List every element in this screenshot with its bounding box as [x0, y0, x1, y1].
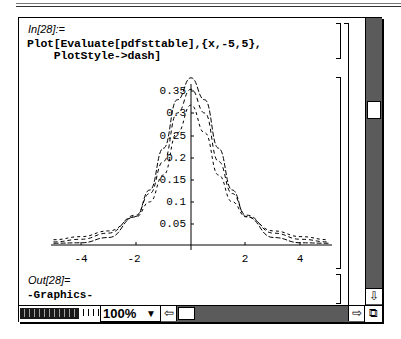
- x-tick-label: 2: [242, 253, 249, 265]
- scroll-right-arrow-icon[interactable]: ⇨: [348, 306, 364, 321]
- x-tick-label: -2: [127, 253, 140, 265]
- y-tick-label: 0.15: [160, 174, 186, 186]
- y-tick-label: 0.1: [166, 196, 186, 208]
- group-cell-bracket[interactable]: [344, 23, 349, 305]
- input-cell-bracket[interactable]: [336, 23, 341, 59]
- page-header-rule: [16, 6, 401, 7]
- vertical-scrollbar[interactable]: ⇩: [365, 18, 382, 305]
- zoom-level: 100%: [103, 306, 143, 322]
- notebook-content: In[28]:= Plot[Evaluate[pdfsttable],{x,-5…: [19, 18, 365, 305]
- notebook-window: In[28]:= Plot[Evaluate[pdfsttable],{x,-5…: [18, 17, 382, 322]
- plot-graphic[interactable]: -4 -2 2 4 0.05 0.1 0.15 0.2 0.25 0.3 0.3…: [19, 18, 365, 278]
- y-tick-label: 0.25: [160, 130, 186, 142]
- window-shadow: [20, 322, 384, 324]
- y-axis: [191, 84, 194, 250]
- output-cell-bracket[interactable]: [336, 274, 341, 304]
- y-tick-label: 0.05: [160, 218, 186, 230]
- vertical-scroll-thumb[interactable]: [367, 101, 381, 119]
- window-shadow: [382, 19, 384, 324]
- scroll-left-arrow-icon[interactable]: ⇦: [161, 306, 177, 321]
- magnification-ticks: [79, 309, 101, 316]
- graphics-cell-bracket[interactable]: [336, 77, 341, 269]
- y-tick-label: 0.2: [166, 152, 186, 164]
- x-tick-label: -4: [74, 253, 88, 265]
- zoom-dropdown-icon[interactable]: ▼: [144, 306, 158, 322]
- page-header-rule-top: [16, 3, 401, 4]
- x-tick-label: 4: [297, 253, 304, 265]
- horizontal-scrollbar[interactable]: ⇦ ⇨: [160, 306, 364, 322]
- x-tick-labels: -4 -2 2 4: [74, 253, 303, 265]
- magnification-slider[interactable]: [19, 306, 101, 322]
- grow-box-icon[interactable]: ⧉: [364, 306, 382, 322]
- scroll-down-arrow-icon[interactable]: ⇩: [366, 288, 382, 304]
- output-label: Out[28]=: [28, 274, 71, 286]
- horizontal-scroll-thumb[interactable]: [178, 307, 195, 320]
- output-value: -Graphics-: [27, 289, 93, 301]
- bottom-bar: 100% ▼ ⇦ ⇨ ⧉: [19, 305, 382, 322]
